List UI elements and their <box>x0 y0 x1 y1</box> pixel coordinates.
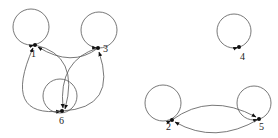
node-label-2: 2 <box>166 121 171 132</box>
graph-svg: 136425 <box>0 0 278 138</box>
node-3 <box>96 46 100 50</box>
edge-3-to-6 <box>62 48 98 108</box>
self-loop-4 <box>217 14 251 48</box>
self-loop-arrow-1 <box>29 45 33 46</box>
graph-diagram: 136425 <box>0 0 278 138</box>
node-1 <box>33 43 37 47</box>
self-loop-5 <box>237 86 271 120</box>
node-label-6: 6 <box>59 115 64 126</box>
edge-1-to-6 <box>35 45 69 109</box>
edge-2-to-5 <box>172 105 256 120</box>
self-loop-1 <box>13 9 49 45</box>
node-label-4: 4 <box>240 51 245 62</box>
self-loop-3 <box>81 12 117 48</box>
node-label-5: 5 <box>259 121 264 132</box>
node-6 <box>60 109 64 113</box>
node-label-1: 1 <box>31 48 36 59</box>
node-4 <box>237 45 241 49</box>
self-loop-2 <box>145 85 181 121</box>
nodes: 136425 <box>31 43 264 132</box>
node-label-3: 3 <box>103 43 108 54</box>
self-loop-6 <box>43 79 77 113</box>
edges <box>22 45 259 133</box>
self-loops <box>13 9 271 123</box>
edge-5-to-2 <box>175 119 259 133</box>
